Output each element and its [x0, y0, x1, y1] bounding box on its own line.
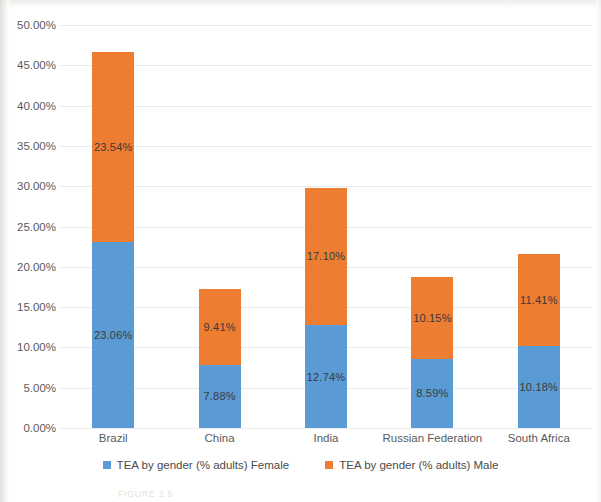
bar-group[interactable]: 7.88%9.41%	[199, 289, 241, 428]
gridline	[60, 25, 592, 26]
x-axis-label-brazil: Brazil	[99, 432, 128, 444]
bar-group[interactable]: 12.74%17.10%	[305, 188, 347, 429]
y-axis-tick-10: 10.00%	[17, 341, 56, 353]
legend-swatch-female	[103, 461, 111, 469]
plot-area: 23.06%23.54%7.88%9.41%12.74%17.10%8.59%1…	[60, 25, 592, 428]
bar-data-label-male: 9.41%	[203, 321, 235, 333]
x-axis-label-russian-federation: Russian Federation	[383, 432, 483, 444]
bar-segment-male[interactable]: 23.54%	[92, 52, 134, 242]
bar-data-label-female: 23.06%	[94, 329, 133, 341]
y-axis-tick-0: 0.00%	[23, 422, 56, 434]
x-axis-category-labels: BrazilChinaIndiaRussian FederationSouth …	[60, 430, 592, 450]
bar-data-label-female: 10.18%	[520, 381, 559, 393]
bar-data-label-female: 12.74%	[307, 371, 346, 383]
y-axis-tick-45: 45.00%	[17, 59, 56, 71]
stacked-bar-chart: 0.00%5.00%10.00%15.00%20.00%25.00%30.00%…	[0, 0, 601, 502]
x-axis-label-south-africa: South Africa	[508, 432, 570, 444]
legend-item[interactable]: TEA by gender (% adults) Male	[325, 459, 498, 471]
legend-label: TEA by gender (% adults) Male	[339, 459, 498, 471]
y-axis-tick-50: 50.00%	[17, 19, 56, 31]
bar-data-label-female: 8.59%	[416, 387, 448, 399]
bar-group[interactable]: 23.06%23.54%	[92, 52, 134, 428]
bar-segment-female[interactable]: 7.88%	[199, 365, 241, 429]
x-axis-label-china: China	[205, 432, 235, 444]
bar-group[interactable]: 8.59%10.15%	[411, 277, 453, 428]
y-axis-tick-30: 30.00%	[17, 180, 56, 192]
bar-data-label-male: 17.10%	[307, 250, 346, 262]
bar-segment-male[interactable]: 10.15%	[411, 277, 453, 359]
y-axis-tick-40: 40.00%	[17, 100, 56, 112]
gridline	[60, 146, 592, 147]
y-axis-tick-labels: 0.00%5.00%10.00%15.00%20.00%25.00%30.00%…	[0, 25, 56, 428]
y-axis-tick-35: 35.00%	[17, 140, 56, 152]
y-axis-tick-5: 5.00%	[23, 382, 56, 394]
chart-legend: TEA by gender (% adults) FemaleTEA by ge…	[0, 456, 601, 474]
bar-segment-female[interactable]: 8.59%	[411, 359, 453, 428]
legend-label: TEA by gender (% adults) Female	[117, 459, 290, 471]
gridline	[60, 428, 592, 429]
gridline	[60, 65, 592, 66]
bar-data-label-male: 10.15%	[413, 312, 452, 324]
bar-segment-male[interactable]: 11.41%	[518, 254, 560, 346]
y-axis-tick-20: 20.00%	[17, 261, 56, 273]
legend-swatch-male	[325, 461, 333, 469]
bar-segment-female[interactable]: 23.06%	[92, 242, 134, 428]
legend-item[interactable]: TEA by gender (% adults) Female	[103, 459, 290, 471]
bar-data-label-male: 11.41%	[520, 294, 558, 306]
x-axis-label-india: India	[314, 432, 339, 444]
bar-group[interactable]: 10.18%11.41%	[518, 254, 560, 428]
y-axis-tick-25: 25.00%	[17, 221, 56, 233]
gridline	[60, 106, 592, 107]
bar-data-label-female: 7.88%	[203, 390, 235, 402]
bar-data-label-male: 23.54%	[94, 141, 133, 153]
figure-caption: FIGURE 2.5	[118, 489, 173, 500]
bar-segment-female[interactable]: 12.74%	[305, 325, 347, 428]
bar-segment-female[interactable]: 10.18%	[518, 346, 560, 428]
bar-segment-male[interactable]: 17.10%	[305, 188, 347, 326]
bar-segment-male[interactable]: 9.41%	[199, 289, 241, 365]
y-axis-tick-15: 15.00%	[17, 301, 56, 313]
